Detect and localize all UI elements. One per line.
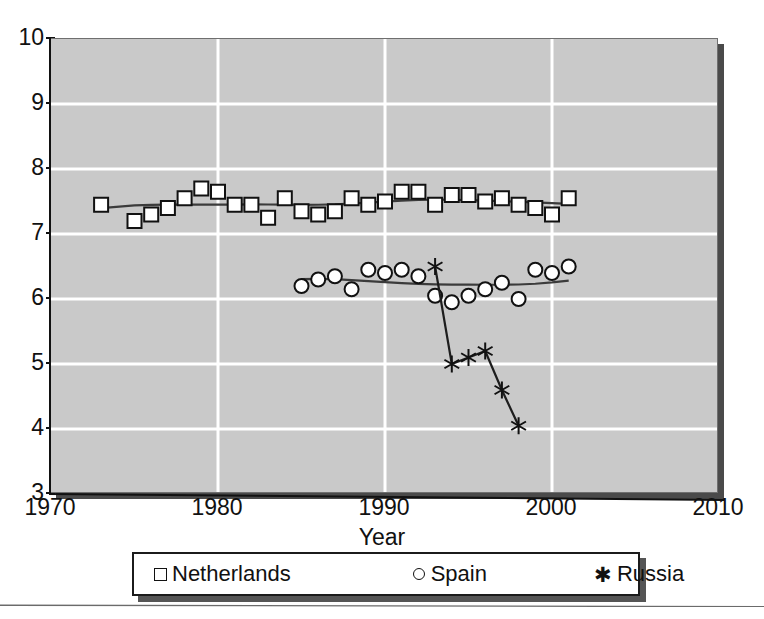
- data-point: [528, 201, 542, 215]
- y-tick-label: 8: [0, 156, 44, 179]
- legend-label-spain: Spain: [431, 561, 487, 587]
- data-point: [361, 198, 375, 212]
- x-tick-label: 1990: [359, 496, 410, 519]
- data-point: [562, 191, 576, 205]
- legend-item-spain: Spain: [409, 561, 487, 587]
- chart-legend: Netherlands Spain ✱ Russia: [132, 552, 640, 596]
- data-point: [462, 289, 476, 303]
- data-point: [244, 198, 258, 212]
- data-point: [462, 188, 476, 202]
- series-netherlands: [94, 182, 576, 229]
- data-point: [295, 279, 309, 293]
- x-tick-label: 1970: [25, 496, 76, 519]
- footer-divider: [0, 604, 764, 607]
- data-point: [128, 214, 142, 228]
- y-tick-label: 6: [0, 286, 44, 309]
- data-point: [411, 269, 425, 283]
- data-point: [495, 191, 509, 205]
- data-point: [495, 276, 509, 290]
- data-point: [445, 188, 459, 202]
- legend-label-russia: Russia: [617, 561, 684, 587]
- data-point: [345, 282, 359, 296]
- legend-label-netherlands: Netherlands: [172, 561, 291, 587]
- data-point: [495, 382, 510, 399]
- plot-wrapper: [50, 38, 718, 493]
- y-tick-label: 7: [0, 221, 44, 244]
- circle-icon: [413, 568, 425, 580]
- chart-canvas: [51, 39, 718, 493]
- data-point: [478, 195, 492, 209]
- data-point: [512, 198, 526, 212]
- data-point: [395, 185, 409, 199]
- data-point: [144, 208, 158, 222]
- y-tick-label: 10: [0, 26, 44, 49]
- data-point: [562, 260, 576, 274]
- data-point: [428, 258, 443, 275]
- square-icon: [154, 568, 167, 581]
- data-point: [511, 417, 526, 434]
- y-tick-label: 4: [0, 416, 44, 439]
- legend-item-netherlands: Netherlands: [150, 561, 291, 587]
- data-point: [228, 198, 242, 212]
- data-point: [328, 269, 342, 283]
- plot-area: [50, 38, 718, 493]
- data-point: [194, 182, 208, 196]
- data-point: [295, 204, 309, 218]
- data-point: [178, 191, 192, 205]
- data-point: [545, 208, 559, 222]
- data-point: [528, 263, 542, 277]
- x-tick-label: 2010: [693, 496, 744, 519]
- x-tick-label: 2000: [526, 496, 577, 519]
- data-point: [545, 266, 559, 280]
- data-point: [378, 266, 392, 280]
- legend-item-russia: ✱ Russia: [590, 561, 684, 587]
- star-icon: ✱: [594, 564, 612, 585]
- data-point: [311, 273, 325, 287]
- data-point: [328, 204, 342, 218]
- chart-page: 109876543 19701980199020002010 Year Neth…: [0, 0, 764, 619]
- data-point: [161, 201, 175, 215]
- data-point: [512, 292, 526, 306]
- data-point: [478, 343, 493, 360]
- data-point: [261, 211, 275, 225]
- data-point: [478, 282, 492, 296]
- data-point: [411, 185, 425, 199]
- data-point: [428, 198, 442, 212]
- data-point: [311, 208, 325, 222]
- data-point: [378, 195, 392, 209]
- x-tick-label: 1980: [192, 496, 243, 519]
- data-point: [94, 198, 108, 212]
- data-point: [395, 263, 409, 277]
- data-point: [278, 191, 292, 205]
- y-tick-label: 5: [0, 351, 44, 374]
- y-tick-label: 9: [0, 91, 44, 114]
- data-point: [445, 295, 459, 309]
- x-axis-title: Year: [0, 524, 764, 551]
- data-point: [361, 263, 375, 277]
- data-point: [345, 191, 359, 205]
- data-point: [211, 185, 225, 199]
